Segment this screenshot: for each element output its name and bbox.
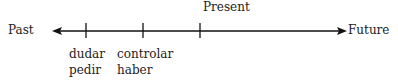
future-label: Future	[348, 23, 389, 37]
tick-1-word-1: dudar	[69, 47, 105, 61]
past-label: Past	[8, 23, 34, 37]
tick-1-word-2: pedir	[69, 63, 101, 77]
tick-2-word-1: controlar	[117, 47, 173, 61]
present-label: Present	[203, 0, 250, 14]
tick-2-word-2: haber	[117, 63, 152, 77]
timeline-graphic	[0, 0, 398, 82]
